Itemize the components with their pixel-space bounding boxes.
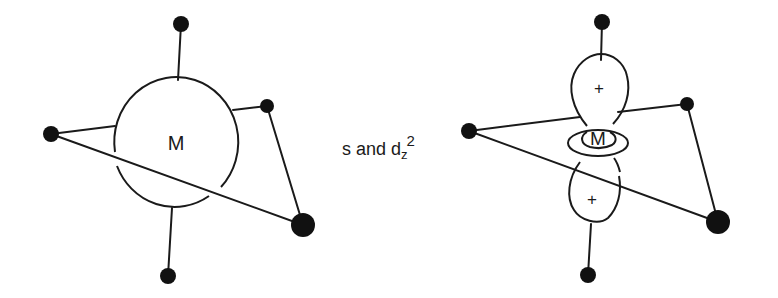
ligand-atom-bottom xyxy=(160,268,176,284)
caption-prefix: s and d xyxy=(342,139,401,159)
metal-label: M xyxy=(590,128,606,149)
ligand-atom-top xyxy=(594,14,610,30)
upper-lobe-sign: + xyxy=(594,79,604,98)
ligand-atom-left xyxy=(43,126,59,142)
ligand-atom-right-upper xyxy=(260,99,274,113)
edge-right xyxy=(267,106,303,225)
ligand-atom-bottom xyxy=(580,267,596,283)
bond-left xyxy=(469,117,580,131)
right-figure-dz2-orbital: M + + xyxy=(461,14,730,283)
bond-left xyxy=(51,126,115,134)
caption-superscript: 2 xyxy=(407,132,415,149)
left-figure-s-orbital: M xyxy=(43,16,315,284)
lower-lobe-sign: + xyxy=(587,190,597,209)
bond-bottom xyxy=(168,208,172,276)
bond-top xyxy=(178,24,181,80)
ligand-atom-right-lower xyxy=(706,210,730,234)
ligand-atom-top xyxy=(173,16,189,32)
bond-right-upper xyxy=(618,104,687,112)
ligand-atom-right-upper xyxy=(680,97,694,111)
orbital-caption: s and dz2 xyxy=(342,132,415,162)
ligand-atom-right-lower xyxy=(291,213,315,237)
ligand-atom-left xyxy=(461,123,477,139)
dz2-lower-lobe-upper-right xyxy=(614,158,620,172)
metal-label: M xyxy=(168,132,185,154)
edge-right xyxy=(687,104,718,222)
caption-subscript: z xyxy=(401,147,408,162)
